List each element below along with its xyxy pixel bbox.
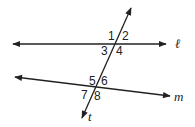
angle-2: 2	[122, 29, 129, 43]
angle-5: 5	[89, 74, 96, 88]
angle-7: 7	[81, 88, 88, 102]
label-t: t	[88, 109, 92, 124]
label-m: m	[174, 89, 183, 104]
diagram-canvas: ℓ m t 1 2 3 4 5 6 7 8	[0, 0, 195, 127]
angle-3: 3	[101, 44, 108, 58]
angle-8: 8	[94, 89, 101, 103]
line-t	[82, 8, 131, 118]
label-l: ℓ	[175, 36, 181, 51]
angle-4: 4	[116, 44, 123, 58]
angle-1: 1	[108, 29, 115, 43]
angle-6: 6	[101, 74, 108, 88]
